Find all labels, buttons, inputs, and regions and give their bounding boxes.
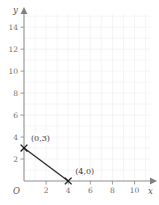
y-tick-label: 12 [8,45,18,54]
x-tick-label: 8 [110,186,115,195]
y-tick-label: 4 [13,133,18,142]
x-axis-arrow-icon [150,178,157,185]
coordinate-plane-chart: 246810 2468101214 (0,3)(4,0) O x y [0,0,159,205]
y-tick-label: 10 [8,67,18,76]
point-annotation-label: (0,3) [31,134,50,143]
x-tick-label: 2 [44,186,49,195]
y-tick-label: 14 [8,23,18,32]
y-tick-label: 6 [13,111,18,120]
x-tick-label: 6 [88,186,93,195]
x-tick-label: 4 [66,186,71,195]
chart-canvas: 246810 2468101214 (0,3)(4,0) O x y [0,0,159,205]
y-tick-label: 8 [13,89,18,98]
y-axis-ticks: 2468101214 [8,23,24,164]
y-axis-arrow-icon [21,7,28,14]
x-axis-label: x [148,186,153,196]
grid-lines [24,14,150,181]
x-axis-ticks: 246810 [44,181,140,195]
x-tick-label: 10 [130,186,140,195]
y-tick-label: 2 [13,155,18,164]
axes [21,7,157,184]
y-axis-label: y [12,5,18,15]
origin-label: O [13,186,20,196]
point-annotation-label: (4,0) [75,167,94,176]
